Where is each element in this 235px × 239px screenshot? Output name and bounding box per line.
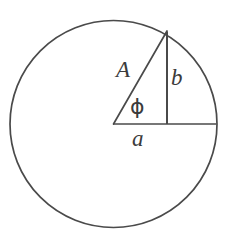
figure-canvas: A b a ϕ: [0, 0, 235, 239]
label-vertical-b: b: [171, 66, 183, 89]
geometry-diagram-svg: [0, 0, 235, 239]
label-angle-phi: ϕ: [130, 96, 145, 118]
label-hypotenuse-A: A: [116, 58, 130, 81]
label-horizontal-a: a: [132, 127, 144, 150]
